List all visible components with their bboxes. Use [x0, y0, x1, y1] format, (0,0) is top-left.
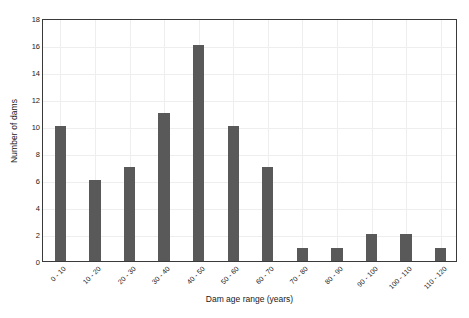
- y-axis-tick-label: 4: [36, 204, 40, 213]
- y-axis-title-text: Number of dams: [9, 99, 19, 163]
- gridline-vertical: [406, 20, 407, 261]
- gridline-horizontal: [43, 101, 456, 102]
- y-axis-tick-label: 12: [32, 96, 40, 105]
- y-axis-tick-label: 10: [32, 123, 40, 132]
- y-axis-title: Number of dams: [6, 0, 22, 262]
- bar: [262, 167, 273, 262]
- gridline-horizontal: [43, 236, 456, 237]
- bar: [331, 248, 342, 262]
- bar: [89, 180, 100, 261]
- gridline-vertical: [372, 20, 373, 261]
- x-axis-tick-label: 90 - 100: [355, 265, 378, 288]
- x-axis-tick-label: 10 - 20: [81, 265, 101, 285]
- plot-area: [42, 19, 457, 262]
- y-axis-tick-label: 2: [36, 231, 40, 240]
- y-axis-tick-labels: 024681012141618: [22, 0, 40, 318]
- bar: [158, 113, 169, 262]
- gridline-horizontal: [43, 182, 456, 183]
- x-axis-tick-label: 70 - 80: [289, 265, 309, 285]
- bar: [228, 126, 239, 261]
- bar: [55, 126, 66, 261]
- bar: [193, 45, 204, 261]
- x-axis-tick-label: 100 - 110: [388, 265, 414, 291]
- gridline-horizontal: [43, 74, 456, 75]
- x-axis-tick-label: 0 - 10: [50, 265, 68, 283]
- x-axis-title: Dam age range (years): [42, 294, 457, 304]
- bar: [366, 234, 377, 261]
- bar: [435, 248, 446, 262]
- y-axis-tick-label: 0: [36, 258, 40, 267]
- x-axis-tick-label: 80 - 90: [324, 265, 344, 285]
- bar: [124, 167, 135, 262]
- y-axis-tick-label: 14: [32, 69, 40, 78]
- gridline-horizontal: [43, 128, 456, 129]
- gridline-horizontal: [43, 155, 456, 156]
- x-axis-tick-label: 40 - 50: [185, 265, 205, 285]
- gridline-horizontal: [43, 47, 456, 48]
- x-axis-tick-label: 30 - 40: [151, 265, 171, 285]
- bar: [400, 234, 411, 261]
- bar-chart-figure: Number of dams 024681012141618 0 - 1010 …: [0, 0, 469, 318]
- x-axis-tick-label: 60 - 70: [254, 265, 274, 285]
- gridline-vertical: [337, 20, 338, 261]
- x-axis-tick-label: 110 - 120: [422, 265, 448, 291]
- y-axis-tick-label: 8: [36, 150, 40, 159]
- gridline-vertical: [302, 20, 303, 261]
- y-axis-tick-label: 16: [32, 42, 40, 51]
- y-axis-tick-label: 6: [36, 177, 40, 186]
- y-axis-tick-label: 18: [32, 15, 40, 24]
- gridline-vertical: [441, 20, 442, 261]
- bar: [297, 248, 308, 262]
- x-axis-tick-label: 20 - 30: [116, 265, 136, 285]
- x-axis-tick-label: 50 - 60: [220, 265, 240, 285]
- gridline-horizontal: [43, 209, 456, 210]
